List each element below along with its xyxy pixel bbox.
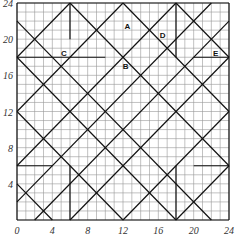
region-label-c: C [61,49,67,58]
x-tick-label: 16 [153,225,163,236]
y-tick-label: 8 [8,143,13,154]
x-tick-label: 20 [189,225,199,236]
x-tick-label: 0 [15,225,20,236]
grid-diagram: 048121620244812162024ABCDE [0,0,236,238]
y-tick-label: 4 [8,179,13,190]
y-tick-label: 20 [3,34,13,45]
region-label-e: E [213,49,219,58]
region-label-a: A [125,22,131,31]
region-label-b: B [123,62,129,71]
y-tick-label: 24 [3,0,13,9]
x-tick-label: 24 [224,225,234,236]
x-tick-label: 4 [50,225,55,236]
x-tick-label: 8 [85,225,90,236]
y-tick-label: 12 [3,107,13,118]
region-label-d: D [160,31,166,40]
y-tick-label: 16 [3,70,13,81]
x-tick-label: 12 [118,225,128,236]
